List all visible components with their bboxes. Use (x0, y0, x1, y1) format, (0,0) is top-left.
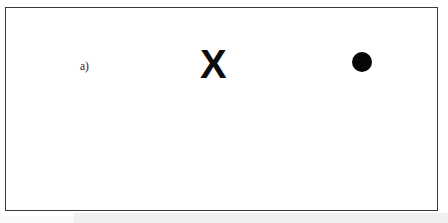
panel-label-a: a) (80, 60, 89, 72)
figure-root: a) X b) X (0, 0, 448, 223)
panel-row-b: b) X (6, 109, 437, 210)
panel-row-a: a) X (6, 8, 437, 109)
probe-dot-a (352, 52, 372, 72)
target-symbol-a: X (200, 44, 227, 84)
page-background-band (74, 213, 448, 223)
figure-frame-border: a) X b) X (5, 7, 438, 211)
